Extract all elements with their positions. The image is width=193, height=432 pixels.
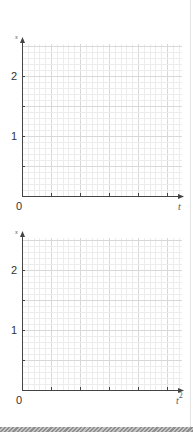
page-edge-divider [190, 0, 191, 427]
y-tick-label-2: 2 [11, 265, 17, 276]
x-axis-label: t2 [176, 394, 183, 406]
worksheet-page: s 2 1 0 t s 2 1 0 t2 [0, 0, 193, 432]
chart-s-vs-t-squared: s 2 1 0 t2 [0, 0, 193, 432]
y-axis-label: s [15, 229, 18, 236]
y-tick-label-1: 1 [11, 325, 17, 336]
origin-label: 0 [16, 395, 22, 406]
footer-hatched-bar [0, 427, 193, 432]
grid-and-axes [0, 0, 193, 432]
y-axis-arrow-icon [20, 231, 25, 237]
